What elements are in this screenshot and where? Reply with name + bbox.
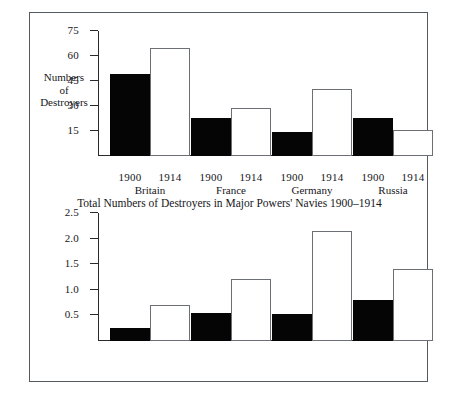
bar-army-france-1900 [191,313,231,341]
y-tick-label-75: 75 [68,25,79,36]
y-tick-label-15: 15 [68,125,79,136]
x-year-france-1900: 1900 [200,171,223,183]
y-tick-30: 30 [90,105,98,106]
x-year-russia-1914: 1914 [402,171,425,183]
bar-destroyers-france-1914 [231,108,271,156]
x-year-britain-1914: 1914 [159,171,182,183]
y-tick-1-0: 1.0 [90,289,98,290]
y-tick-60: 60 [90,55,98,56]
bar-army-russia-1914 [393,269,433,341]
y-axis-title-line: Destroyers [32,96,96,109]
y-axis-line [98,31,99,156]
bar-destroyers-germany-1914 [312,89,352,156]
y-tick-label-0-5: 0.5 [65,309,79,320]
bar-army-britain-1900 [110,328,150,341]
y-tick-label-30: 30 [68,100,79,111]
bar-army-russia-1900 [353,300,393,341]
bar-army-germany-1914 [312,231,352,341]
y-tick-label-1-5: 1.5 [65,258,79,269]
y-tick-45: 45 [90,80,98,81]
y-tick-15: 15 [90,130,98,131]
chart-destroyers: Numbers of Destroyers 15 30 45 60 75 [30,13,429,193]
bar-destroyers-germany-1900 [272,132,312,156]
bar-destroyers-britain-1900 [110,74,150,156]
x-year-germany-1900: 1900 [281,171,304,183]
x-year-germany-1914: 1914 [321,171,344,183]
bar-destroyers-russia-1914 [393,130,433,156]
bar-army-britain-1914 [150,305,190,341]
y-tick-label-2-0: 2.0 [65,232,79,243]
y-tick-label-2-5: 2.5 [65,207,79,218]
y-tick-1-5: 1.5 [90,263,98,264]
y-axis-title-line: of [32,84,96,97]
x-year-russia-1900: 1900 [362,171,385,183]
y-tick-2-5: 2.5 [90,212,98,213]
y-axis-line [98,213,99,341]
bar-destroyers-britain-1914 [150,48,190,156]
bar-destroyers-france-1900 [191,118,231,156]
bar-army-france-1914 [231,279,271,342]
y-axis-title-line: Numbers [32,71,96,84]
y-tick-0-5: 0.5 [90,314,98,315]
y-tick-label-1-0: 1.0 [65,283,79,294]
plot-area-destroyers: 15 30 45 60 75 [98,31,415,156]
y-tick-label-60: 60 [68,50,79,61]
bar-destroyers-russia-1900 [353,118,393,156]
figure-frame: Numbers of Destroyers 15 30 45 60 75 [29,12,428,382]
x-year-france-1914: 1914 [240,171,263,183]
y-tick-label-45: 45 [68,75,79,86]
x-year-britain-1900: 1900 [119,171,142,183]
y-tick-2-0: 2.0 [90,238,98,239]
y-tick-75: 75 [90,30,98,31]
plot-area-army: 0.5 1.0 1.5 2.0 2.5 [98,213,415,341]
chart-army-personnel: Millions of Men 0.5 1.0 1.5 2.0 2.5 [30,188,429,383]
bar-army-germany-1900 [272,314,312,341]
y-axis-title-destroyers: Numbers of Destroyers [32,71,96,109]
